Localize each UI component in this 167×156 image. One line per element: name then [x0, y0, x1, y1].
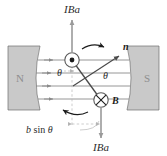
magnet-pole-south: S: [127, 46, 159, 110]
current-into-page-icon: [94, 93, 108, 107]
magnet-pole-north: N: [8, 46, 40, 110]
force-down-label: IBa: [92, 141, 109, 153]
normal-vector-group: n: [73, 41, 129, 86]
distance-label: b sin θ: [26, 124, 53, 135]
north-pole-shape: [8, 46, 40, 110]
circle-dot-center: [70, 58, 75, 63]
normal-vector-label: n: [123, 41, 129, 52]
current-out-of-page-icon: [65, 53, 79, 67]
rotation-arrow-top: [82, 45, 104, 49]
rotation-arrow-bottom: [63, 110, 88, 115]
force-down-group: IBa: [92, 107, 109, 153]
field-vector-label: B: [111, 95, 119, 106]
north-pole-label: N: [16, 72, 24, 84]
distance-leader-line: [80, 121, 99, 130]
force-up-group: IBa: [63, 3, 80, 53]
theta-right-label: θ: [103, 70, 108, 81]
theta-left-label: θ: [57, 67, 62, 78]
south-pole-label: S: [144, 72, 150, 84]
force-up-label: IBa: [63, 3, 80, 15]
physics-diagram: N S n θ θ: [0, 0, 167, 156]
distance-angle: θ: [48, 124, 53, 135]
distance-sin: sin: [31, 124, 48, 135]
diagram-canvas: N S n θ θ: [0, 0, 167, 156]
